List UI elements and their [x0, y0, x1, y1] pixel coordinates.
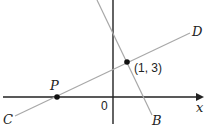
label-origin: 0 [101, 99, 108, 113]
point-intersection [124, 59, 130, 65]
label-c: C [3, 112, 13, 127]
point-p [54, 94, 60, 100]
label-intersection: (1, 3) [134, 61, 162, 75]
coordinate-diagram: D (1, 3) P 0 x C B [0, 0, 206, 128]
line-ab [97, 0, 152, 115]
label-p: P [49, 78, 59, 93]
label-x-axis: x [196, 100, 204, 115]
label-d: D [191, 24, 203, 39]
label-b: B [151, 113, 162, 128]
